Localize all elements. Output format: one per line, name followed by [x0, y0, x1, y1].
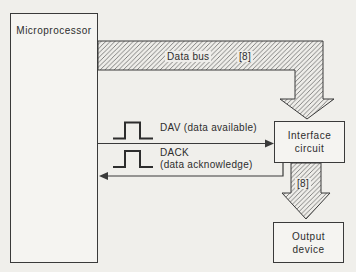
- interface-to-output-width-label: [8]: [295, 178, 311, 189]
- dack-signal-label: DACK: [160, 147, 189, 158]
- diagram-canvas: Microprocessor Interface circuit Output …: [0, 0, 356, 272]
- output-device-label-line2: device: [274, 244, 343, 257]
- data-bus-width-label: [8]: [237, 51, 253, 62]
- data-bus-arrow: [98, 41, 334, 119]
- data-bus-label: Data bus: [165, 51, 211, 62]
- dack-pulse-icon: [113, 151, 153, 167]
- interface-circuit-label-line2: circuit: [275, 143, 344, 156]
- interface-to-output-arrow: [282, 163, 330, 219]
- dav-pulse-icon: [113, 123, 153, 139]
- dack-signal-sublabel: (data acknowledge): [160, 159, 253, 170]
- dav-signal-label: DAV (data available): [160, 122, 257, 133]
- microprocessor-label: Microprocessor: [11, 25, 97, 38]
- interface-circuit-box: Interface circuit: [274, 121, 345, 163]
- dack-arrowhead: [99, 172, 108, 180]
- output-device-box: Output device: [273, 222, 344, 263]
- output-device-label-line1: Output: [274, 231, 343, 244]
- dav-arrowhead: [265, 140, 274, 148]
- microprocessor-box: Microprocessor: [10, 13, 98, 263]
- interface-circuit-label-line1: Interface: [275, 130, 344, 143]
